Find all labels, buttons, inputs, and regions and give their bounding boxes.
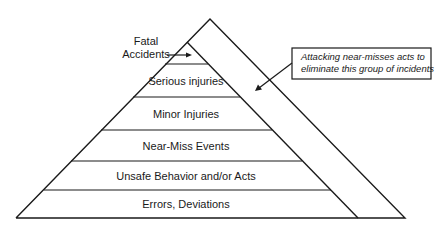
callout-arrow-icon	[255, 85, 262, 92]
callout-arrow-shaft	[259, 63, 292, 88]
callout-text-line1: Attacking near-misses acts to	[300, 51, 425, 62]
fatal-arrow-icon	[186, 53, 192, 58]
safety-pyramid-diagram: Serious injuries Minor Injuries Near-Mis…	[0, 0, 439, 235]
fatal-label-line1: Fatal	[134, 35, 158, 47]
fatal-label-line2: Accidents	[122, 48, 170, 60]
tier-label-minor: Minor Injuries	[153, 108, 220, 120]
tier-label-serious: Serious injuries	[148, 75, 224, 87]
callout-text-line2: eliminate this group of incidents	[301, 63, 434, 74]
tier-label-nearmiss: Near-Miss Events	[143, 140, 230, 152]
tier-label-unsafe: Unsafe Behavior and/or Acts	[116, 170, 256, 182]
tier-label-errors: Errors, Deviations	[142, 198, 230, 210]
